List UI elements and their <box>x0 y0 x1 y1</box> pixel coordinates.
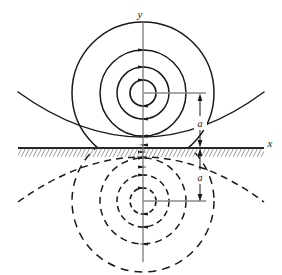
y-axis-label: y <box>137 8 143 20</box>
field-line-outer-arc-upper <box>18 92 264 137</box>
arrowhead-icon <box>198 94 203 102</box>
field-line-outer-arc-lower <box>18 157 264 202</box>
x-axis-label: x <box>267 137 273 149</box>
upper-field-lines <box>18 22 264 164</box>
plane-hatching <box>18 149 264 157</box>
arrowhead-icon <box>198 140 203 148</box>
dimension-label-below: a <box>198 172 203 183</box>
field-line-diagram: y x a a <box>0 0 282 275</box>
diagram-canvas: y x a a <box>0 0 282 275</box>
conducting-plane <box>18 148 264 157</box>
dimension-label-above: a <box>198 118 203 129</box>
